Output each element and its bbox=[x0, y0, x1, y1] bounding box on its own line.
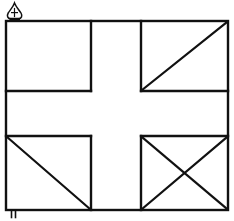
canvas-background bbox=[0, 0, 234, 221]
flag-line-drawing bbox=[0, 0, 234, 221]
figure-root: Hand-drawn rectangular flag outline divi… bbox=[0, 0, 234, 221]
